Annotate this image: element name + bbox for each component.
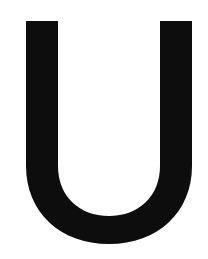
glyph-layer: letter-u (0, 0, 208, 259)
letter-u-glyph: letter-u (0, 0, 208, 259)
image-canvas: letter-u (0, 0, 208, 259)
